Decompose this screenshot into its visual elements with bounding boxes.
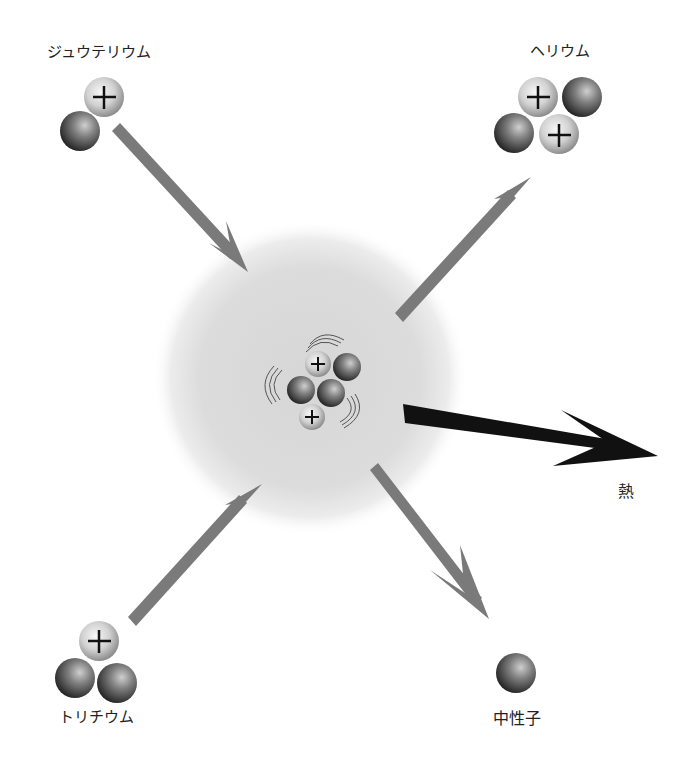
label-neutron: 中性子 (493, 711, 541, 727)
neutron-sphere (60, 111, 100, 151)
arrow-center-to-neutron (370, 463, 489, 619)
neutron-sphere (562, 77, 602, 117)
neutron-sphere (317, 379, 345, 407)
neutron-sphere (55, 658, 95, 698)
arrow-deuterium-to-center (112, 123, 248, 272)
neutron-sphere (333, 353, 361, 381)
emitted-neutron (496, 653, 536, 693)
arrow-center-to-helium (395, 177, 531, 322)
arrow-tritium-to-center (128, 484, 262, 626)
fusion-glow (152, 220, 468, 536)
helium-nucleus (494, 77, 602, 154)
neutron-sphere (494, 113, 534, 153)
label-tritium: トリチウム (59, 710, 134, 725)
tritium-nucleus (55, 621, 137, 703)
fusion-diagram (0, 0, 698, 780)
label-deuterium: ジュウテリウム (47, 45, 151, 60)
neutron-sphere (496, 653, 536, 693)
neutron-sphere (287, 376, 315, 404)
neutron-sphere (97, 663, 137, 703)
label-helium: ヘリウム (530, 44, 590, 59)
label-heat: 熱 (618, 484, 634, 500)
deuterium-nucleus (60, 77, 124, 151)
